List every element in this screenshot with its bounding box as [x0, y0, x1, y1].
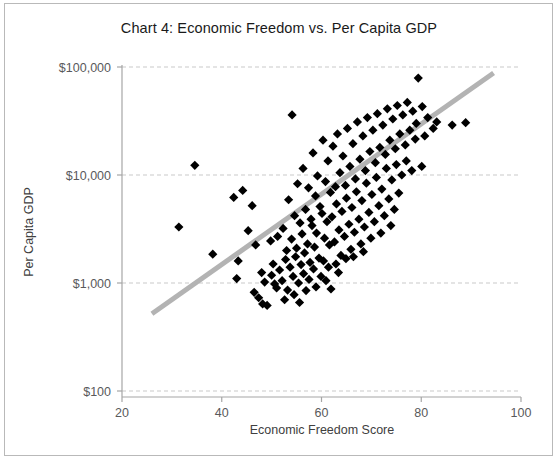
data-point [291, 252, 300, 261]
data-point [208, 250, 217, 259]
data-point [289, 290, 298, 299]
data-point [337, 207, 346, 216]
data-point [275, 265, 284, 274]
data-point [311, 282, 320, 291]
data-point [296, 260, 305, 269]
y-tick-label: $100 [83, 385, 111, 399]
data-point [297, 229, 306, 238]
data-point [238, 186, 247, 195]
data-point [312, 228, 321, 237]
data-point [315, 202, 324, 211]
data-point [382, 164, 391, 173]
data-point [304, 183, 313, 192]
y-axis-tick-labels: $100$1,000$10,000$100,000 [59, 61, 111, 399]
data-point [338, 151, 347, 160]
data-point [408, 107, 417, 116]
data-point [417, 162, 426, 171]
data-point [295, 218, 304, 227]
data-point [348, 139, 357, 148]
data-point [461, 118, 470, 127]
data-point [349, 252, 358, 261]
y-tick-label: $1,000 [73, 277, 111, 291]
data-point [376, 228, 385, 237]
data-point [267, 271, 276, 280]
scatter-plot: $100$1,000$10,000$100,000 20406080100 Pe… [0, 0, 558, 461]
data-point [229, 193, 238, 202]
data-point [321, 177, 330, 186]
data-point [358, 131, 367, 140]
x-axis-title: Economic Freedom Score [250, 423, 395, 437]
data-point [354, 215, 363, 224]
data-point [380, 211, 389, 220]
data-point [287, 234, 296, 243]
gridlines [122, 67, 521, 391]
data-point [401, 140, 410, 149]
data-point [342, 194, 351, 203]
data-point [366, 234, 375, 243]
data-point [367, 190, 376, 199]
data-point [299, 269, 308, 278]
data-point [313, 171, 322, 180]
data-point [365, 147, 374, 156]
data-point [390, 205, 399, 214]
axes [122, 65, 521, 397]
data-point [323, 156, 332, 165]
data-point [281, 255, 290, 264]
data-point [398, 110, 407, 119]
data-point [411, 134, 420, 143]
data-point [334, 268, 343, 277]
data-point [190, 161, 199, 170]
data-point [364, 208, 373, 217]
data-point [332, 199, 341, 208]
data-point [294, 278, 303, 287]
data-point [363, 113, 372, 122]
data-point [368, 126, 377, 135]
data-point [285, 263, 294, 272]
data-point [328, 142, 337, 151]
data-point [307, 221, 316, 230]
data-point [244, 226, 253, 235]
data-point [266, 236, 275, 245]
data-point [377, 185, 386, 194]
x-tick-label: 40 [215, 406, 229, 420]
data-point [174, 222, 183, 231]
data-point [301, 286, 310, 295]
data-point [351, 174, 360, 183]
data-point [372, 173, 381, 182]
data-point [288, 272, 297, 281]
data-point [232, 274, 241, 283]
data-point [360, 222, 369, 231]
data-point [356, 239, 365, 248]
data-point [347, 203, 356, 212]
data-point [384, 194, 393, 203]
data-point [346, 245, 355, 254]
data-point [362, 179, 371, 188]
data-point [326, 284, 335, 293]
data-point [414, 73, 423, 82]
data-point [420, 131, 429, 140]
x-tick-label: 20 [115, 406, 129, 420]
data-point [340, 232, 349, 241]
x-tick-label: 60 [315, 406, 329, 420]
data-point [284, 195, 293, 204]
data-point [320, 234, 329, 243]
data-point [293, 179, 302, 188]
data-point [343, 124, 352, 133]
data-point [397, 170, 406, 179]
data-point [392, 160, 401, 169]
data-point [386, 221, 395, 230]
data-point [292, 244, 301, 253]
chart-screenshot: Chart 4: Economic Freedom vs. Per Capita… [0, 0, 558, 461]
data-point [370, 217, 379, 226]
x-axis-tick-labels: 20406080100 [115, 406, 531, 420]
x-tick-label: 80 [414, 406, 428, 420]
data-point [418, 102, 427, 111]
data-point [373, 109, 382, 118]
data-point [260, 277, 269, 286]
data-point [300, 248, 309, 257]
data-point [394, 188, 403, 197]
data-point [283, 285, 292, 294]
data-point [388, 114, 397, 123]
data-point [318, 136, 327, 145]
data-point [308, 148, 317, 157]
